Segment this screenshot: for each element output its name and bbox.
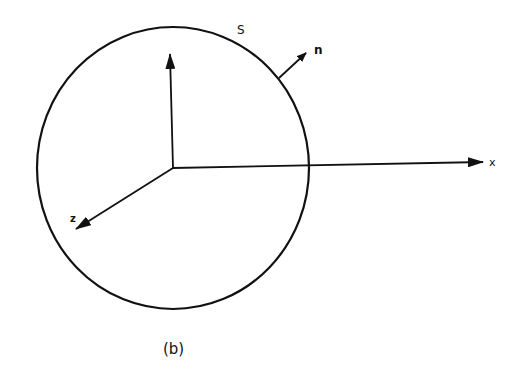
z-axis-label: z <box>70 213 76 224</box>
surface-label: S <box>237 23 245 37</box>
figure-caption: (b) <box>163 340 184 358</box>
normal-label: n <box>314 43 323 57</box>
x-axis-label: x <box>489 156 496 169</box>
label-layer: S n x z (b) <box>0 0 519 375</box>
